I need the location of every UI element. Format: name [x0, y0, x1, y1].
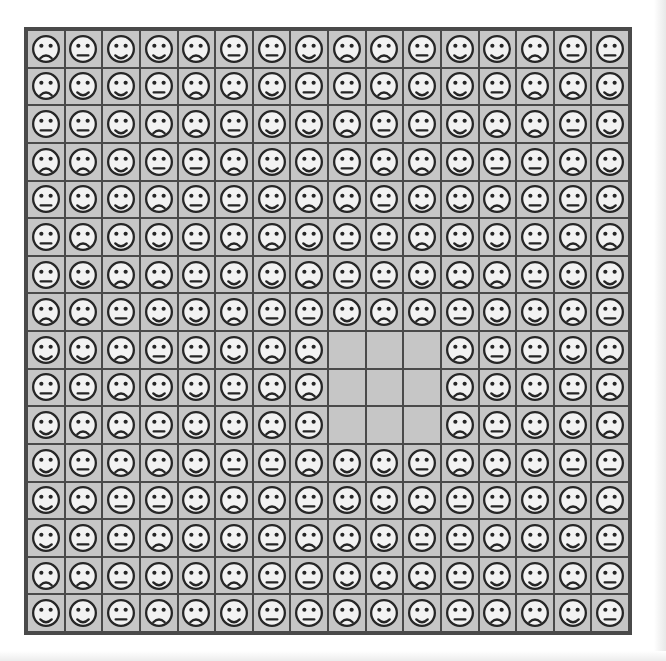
grid-cell[interactable]	[179, 106, 215, 142]
grid-cell[interactable]	[404, 595, 440, 631]
grid-cell[interactable]	[442, 219, 478, 255]
grid-cell[interactable]	[367, 106, 403, 142]
grid-cell[interactable]	[329, 520, 365, 556]
grid-cell[interactable]	[216, 332, 252, 368]
grid-cell[interactable]	[28, 31, 64, 67]
grid-cell[interactable]	[66, 558, 102, 594]
grid-cell[interactable]	[480, 219, 516, 255]
grid-cell[interactable]	[28, 182, 64, 218]
grid-cell[interactable]	[291, 332, 327, 368]
grid-cell[interactable]	[555, 144, 591, 180]
grid-cell[interactable]	[329, 483, 365, 519]
grid-cell[interactable]	[103, 31, 139, 67]
grid-cell[interactable]	[555, 370, 591, 406]
grid-cell[interactable]	[517, 332, 553, 368]
grid-cell[interactable]	[254, 257, 290, 293]
grid-cell[interactable]	[367, 182, 403, 218]
grid-cell[interactable]	[517, 31, 553, 67]
grid-cell[interactable]	[179, 69, 215, 105]
grid-cell[interactable]	[254, 558, 290, 594]
grid-cell[interactable]	[592, 595, 628, 631]
grid-cell[interactable]	[141, 483, 177, 519]
grid-cell[interactable]	[291, 370, 327, 406]
grid-cell[interactable]	[442, 332, 478, 368]
grid-cell[interactable]	[291, 558, 327, 594]
grid-cell[interactable]	[555, 69, 591, 105]
grid-cell[interactable]	[592, 31, 628, 67]
grid-cell[interactable]	[254, 31, 290, 67]
grid-cell[interactable]	[291, 294, 327, 330]
grid-cell[interactable]	[404, 106, 440, 142]
grid-cell[interactable]	[179, 294, 215, 330]
grid-cell[interactable]	[28, 370, 64, 406]
grid-cell[interactable]	[555, 332, 591, 368]
grid-cell-empty[interactable]	[329, 332, 365, 368]
grid-cell[interactable]	[404, 219, 440, 255]
grid-cell[interactable]	[103, 294, 139, 330]
grid-cell[interactable]	[480, 257, 516, 293]
grid-cell[interactable]	[367, 31, 403, 67]
grid-cell[interactable]	[517, 257, 553, 293]
grid-cell[interactable]	[216, 558, 252, 594]
grid-cell[interactable]	[28, 294, 64, 330]
grid-cell[interactable]	[66, 144, 102, 180]
grid-cell[interactable]	[517, 219, 553, 255]
grid-cell[interactable]	[28, 445, 64, 481]
grid-cell[interactable]	[329, 445, 365, 481]
grid-cell[interactable]	[555, 520, 591, 556]
grid-cell[interactable]	[254, 370, 290, 406]
grid-cell[interactable]	[404, 144, 440, 180]
grid-cell[interactable]	[592, 257, 628, 293]
grid-cell[interactable]	[141, 294, 177, 330]
grid-cell[interactable]	[404, 182, 440, 218]
grid-cell[interactable]	[329, 106, 365, 142]
grid-cell[interactable]	[404, 31, 440, 67]
grid-cell[interactable]	[517, 69, 553, 105]
grid-cell[interactable]	[329, 219, 365, 255]
grid-cell[interactable]	[141, 219, 177, 255]
grid-cell[interactable]	[179, 445, 215, 481]
grid-cell[interactable]	[517, 182, 553, 218]
grid-cell[interactable]	[555, 182, 591, 218]
grid-cell[interactable]	[103, 257, 139, 293]
grid-cell[interactable]	[329, 31, 365, 67]
grid-cell[interactable]	[555, 294, 591, 330]
grid-cell[interactable]	[555, 106, 591, 142]
grid-cell[interactable]	[442, 520, 478, 556]
grid-cell[interactable]	[480, 483, 516, 519]
grid-cell[interactable]	[592, 69, 628, 105]
grid-cell[interactable]	[555, 483, 591, 519]
grid-cell[interactable]	[28, 520, 64, 556]
grid-cell[interactable]	[66, 332, 102, 368]
grid-cell[interactable]	[216, 31, 252, 67]
grid-cell[interactable]	[291, 445, 327, 481]
grid-cell[interactable]	[291, 483, 327, 519]
grid-cell[interactable]	[404, 445, 440, 481]
grid-cell[interactable]	[442, 144, 478, 180]
grid-cell[interactable]	[254, 595, 290, 631]
grid-cell-empty[interactable]	[329, 370, 365, 406]
grid-cell[interactable]	[66, 370, 102, 406]
grid-cell[interactable]	[592, 332, 628, 368]
grid-cell[interactable]	[103, 69, 139, 105]
grid-cell[interactable]	[66, 294, 102, 330]
grid-cell[interactable]	[179, 31, 215, 67]
grid-cell[interactable]	[216, 370, 252, 406]
grid-cell[interactable]	[404, 483, 440, 519]
grid-cell[interactable]	[103, 558, 139, 594]
grid-cell[interactable]	[404, 257, 440, 293]
grid-cell[interactable]	[66, 106, 102, 142]
grid-cell[interactable]	[216, 294, 252, 330]
grid-cell[interactable]	[517, 294, 553, 330]
grid-cell[interactable]	[555, 219, 591, 255]
grid-cell-empty[interactable]	[329, 407, 365, 443]
grid-cell[interactable]	[592, 483, 628, 519]
grid-cell[interactable]	[28, 257, 64, 293]
grid-cell[interactable]	[442, 407, 478, 443]
grid-cell[interactable]	[28, 483, 64, 519]
grid-cell[interactable]	[141, 257, 177, 293]
grid-cell[interactable]	[517, 558, 553, 594]
grid-cell[interactable]	[592, 558, 628, 594]
grid-cell[interactable]	[592, 182, 628, 218]
grid-cell[interactable]	[592, 520, 628, 556]
